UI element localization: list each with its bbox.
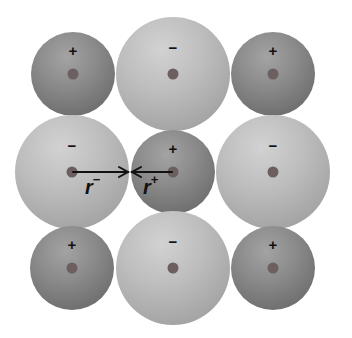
anion-radius-label: r−	[85, 174, 100, 199]
negative-superscript: −	[93, 172, 101, 187]
radius-symbol: r	[143, 176, 151, 198]
cation-radius-label: r+	[143, 174, 158, 199]
positive-superscript: +	[151, 172, 159, 187]
radius-arrows	[0, 0, 352, 338]
radius-symbol: r	[85, 176, 93, 198]
